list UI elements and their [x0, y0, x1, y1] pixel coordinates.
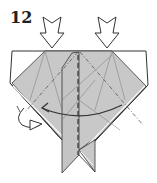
origami-diagram [0, 0, 157, 183]
push-arrow-left-icon [40, 17, 64, 48]
push-arrow-right-icon [95, 17, 119, 48]
